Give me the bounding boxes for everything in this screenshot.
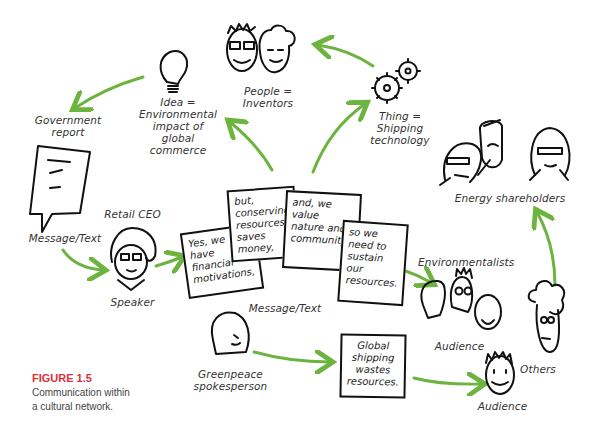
energy-shareholders-icon — [440, 120, 570, 185]
idea-line: commerce — [138, 144, 218, 156]
arrow-idea-to-report — [75, 77, 143, 108]
audience-label-1: Audience — [432, 340, 487, 352]
box-line: Global — [347, 340, 399, 353]
box-line: wastes — [347, 364, 399, 377]
figure-label: FIGURE 1.5 — [32, 372, 92, 384]
greenpeace-label: Greenpeace spokesperson — [193, 368, 268, 392]
idea-line: global — [138, 132, 218, 144]
arrow-message-to-thing — [313, 104, 365, 172]
box-line: resources. — [347, 376, 399, 389]
lightbulb-icon — [161, 51, 187, 92]
government-line: Government — [28, 114, 108, 126]
card-line: resources. — [345, 274, 398, 290]
environmentalists-label: Environmentalists — [418, 256, 513, 268]
thing-line: Thing = — [370, 110, 430, 122]
arrow-speaker-to-cards — [156, 257, 182, 266]
speaker-label: Speaker — [110, 296, 155, 308]
message-text-label: Message/Text — [245, 302, 325, 314]
energy-shareholders-label: Energy shareholders — [450, 192, 570, 204]
thing-line: Shipping — [370, 122, 430, 134]
arrow-message-to-idea — [230, 122, 272, 170]
people-line: People = — [238, 85, 298, 97]
government-report-label: Government report — [28, 114, 108, 138]
document-icon — [30, 146, 90, 232]
gears-icon — [372, 59, 420, 103]
idea-line: impact of — [138, 120, 218, 132]
greenpeace-spokesperson-icon — [212, 312, 249, 354]
box-line: shipping — [347, 352, 399, 365]
government-line: report — [28, 126, 108, 138]
figure-caption: Communication within a cultural network. — [32, 386, 152, 414]
others-icon — [529, 281, 564, 352]
retail-ceo-label: Retail CEO — [100, 208, 165, 220]
idea-label: Idea = Environmental impact of global co… — [138, 96, 218, 156]
thing-label: Thing = Shipping technology — [370, 110, 430, 146]
people-label: People = Inventors — [238, 85, 298, 109]
audience-face-icon — [486, 352, 514, 394]
arrow-cards-to-env — [403, 270, 432, 283]
thing-line: technology — [370, 134, 430, 146]
document-message-label: Message/Text — [25, 232, 105, 244]
audience-label-2: Audience — [475, 400, 530, 412]
idea-line: Idea = — [138, 96, 218, 108]
arrow-others-to-energy — [537, 212, 555, 285]
caption-line: a cultural network. — [32, 400, 152, 414]
greenpeace-line: spokesperson — [193, 380, 268, 392]
caption-line: Communication within — [32, 386, 152, 400]
inventors-faces-icon — [227, 24, 295, 72]
message-card-4: so we need to sustain our resources. — [337, 220, 409, 306]
others-label: Others — [518, 363, 558, 375]
greenpeace-line: Greenpeace — [193, 368, 268, 380]
idea-line: Environmental — [138, 108, 218, 120]
arrow-text-to-speaker — [63, 250, 103, 270]
environmentalists-icon — [421, 268, 501, 329]
global-shipping-box: Global shipping wastes resources. — [339, 333, 406, 398]
arrow-greenpeace-to-box — [254, 352, 330, 362]
arrow-thing-to-people — [318, 45, 373, 66]
retail-ceo-icon — [111, 228, 155, 290]
arrow-box-to-audience — [414, 378, 482, 384]
people-line: Inventors — [238, 97, 298, 109]
